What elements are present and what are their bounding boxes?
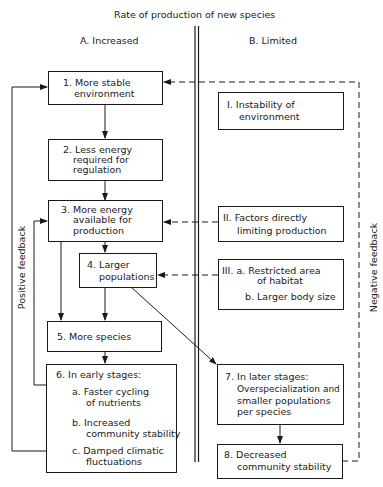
box-text: populations — [99, 271, 155, 282]
column-a-heading: A. Increased — [80, 35, 139, 46]
box-text: community stability — [237, 461, 331, 472]
box-4-larger-populations: 4. Larger populations — [79, 253, 157, 288]
box-text: II. Factors directly — [223, 212, 307, 223]
box-text: smaller populations — [237, 395, 331, 406]
box-text: 4. Larger — [87, 259, 130, 270]
box-text: a. Faster cycling — [72, 386, 149, 397]
box-2-less-energy-regulation: 2. Less energy required for regulation — [48, 139, 163, 181]
box-text: limiting production — [237, 225, 327, 236]
box-I-instability: I. Instability of environment — [218, 92, 344, 130]
box-text: 1. More stable — [63, 77, 131, 88]
box-text: environment — [74, 88, 135, 99]
box-text: Overspecialization and — [237, 384, 340, 395]
box-text: 5. More species — [57, 331, 131, 342]
box-text: production — [73, 225, 124, 236]
column-b-heading: B. Limited — [249, 35, 297, 46]
box-text: 7. In later stages: — [225, 371, 308, 382]
box-text: I. Instability of — [227, 99, 295, 110]
box-1-more-stable-environment: 1. More stable environment — [48, 71, 163, 105]
box-text: per species — [237, 406, 291, 417]
box-text: community stability — [86, 428, 180, 439]
box-5-more-species: 5. More species — [47, 321, 162, 352]
box-II-limiting-factors: II. Factors directly limiting production — [218, 206, 344, 242]
negative-feedback-label: Negative feedback — [368, 223, 379, 312]
box-III-habitat-body-size: III. a. Restricted area of habitat b. La… — [218, 259, 344, 310]
box-text: b. Increased — [72, 417, 130, 428]
box-text: available for — [73, 214, 132, 225]
box-text: of habitat — [257, 275, 303, 286]
box-3-more-energy-production: 3. More energy available for production — [48, 200, 163, 242]
box-text: 8. Decreased — [224, 449, 287, 460]
positive-feedback-label: Positive feedback — [16, 226, 27, 309]
box-6-early-stages: 6. In early stages: a. Faster cycling of… — [46, 364, 177, 473]
box-text: c. Damped climatic — [72, 445, 164, 456]
box-text: fluctuations — [86, 456, 142, 467]
box-7-later-stages: 7. In later stages: Overspecialization a… — [217, 364, 344, 425]
diagram-title: Rate of production of new species — [114, 9, 275, 20]
box-8-decreased-stability: 8. Decreased community stability — [217, 444, 343, 479]
box-text: environment — [239, 111, 300, 122]
box-text: 6. In early stages: — [56, 369, 141, 380]
box-text: b. Larger body size — [245, 291, 336, 302]
positive-feedback-loop-inner — [34, 221, 47, 385]
box-text: regulation — [73, 164, 121, 175]
box-text: of nutrients — [86, 397, 141, 408]
